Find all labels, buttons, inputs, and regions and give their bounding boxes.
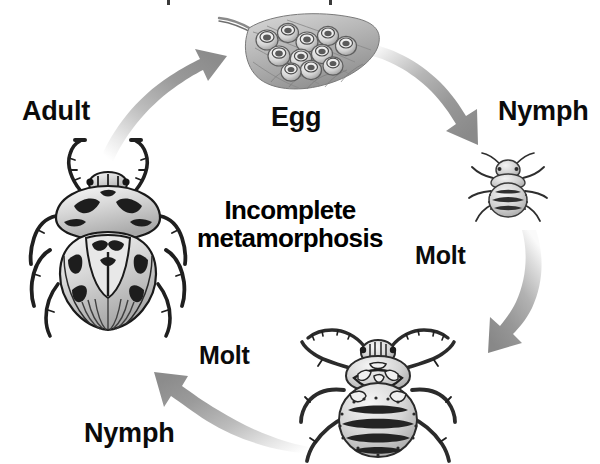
cropped-text-fragment-left — [167, 0, 170, 5]
early-instar-nymph-illustration — [466, 148, 552, 230]
label-adult: Adult — [22, 98, 90, 125]
diagram-title-line-1: Incomplete — [180, 196, 400, 224]
label-molt-right: Molt — [415, 243, 466, 268]
egg-mass-on-leaf-illustration — [215, 4, 395, 100]
label-nymph-bottom: Nymph — [84, 420, 175, 447]
diagram-title-line-2: metamorphosis — [180, 224, 400, 252]
adult-stink-bug-illustration — [20, 134, 196, 340]
late-instar-nymph-illustration — [292, 322, 468, 464]
label-egg: Egg — [271, 104, 321, 131]
arrow-nymph-to-nymph — [474, 228, 570, 364]
diagram-title: Incomplete metamorphosis — [180, 196, 400, 252]
label-nymph-right: Nymph — [498, 98, 589, 125]
incomplete-metamorphosis-diagram: Adult Egg Nymph Molt Molt Nymph Incomple… — [0, 0, 600, 464]
label-molt-left: Molt — [199, 343, 250, 368]
